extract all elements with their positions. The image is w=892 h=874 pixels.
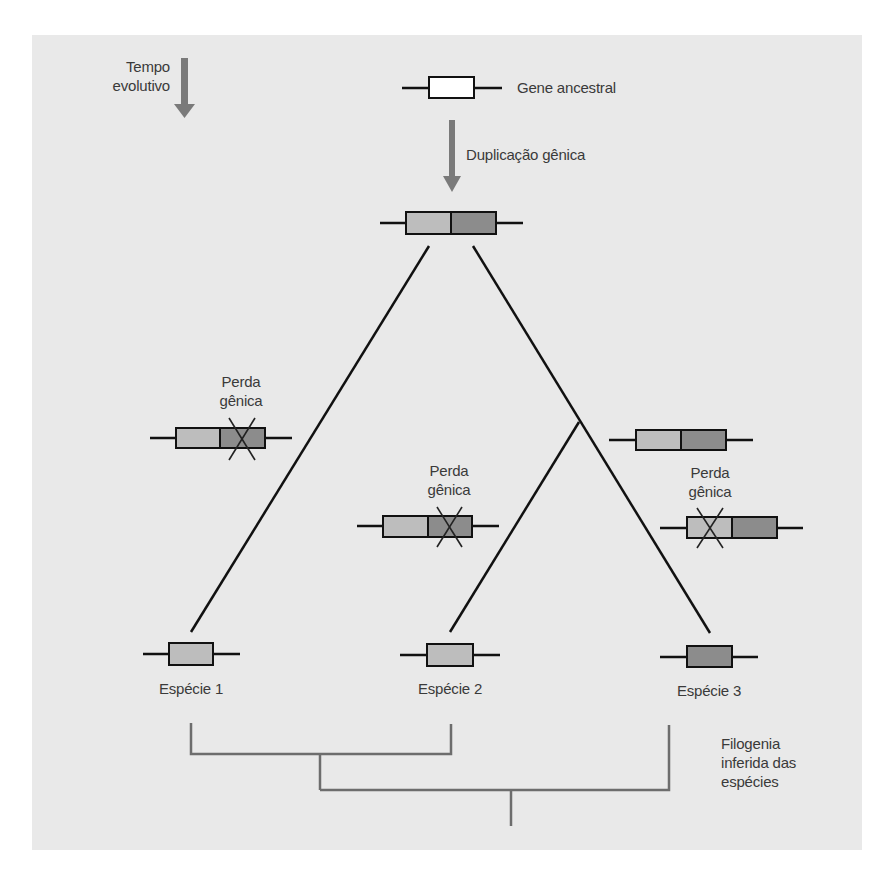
phylogeny-label-line3: espécies [721, 772, 796, 791]
gene-loss-left-label: Perda gênica [200, 372, 282, 410]
loss-label-line1: Perda [408, 461, 490, 480]
duplication-label: Duplicação gênica [466, 145, 585, 164]
time-label: Tempo evolutivo [96, 57, 170, 95]
species3-gene [660, 646, 758, 667]
species2-label: Espécie 2 [400, 679, 500, 698]
loss-label-line1: Perda [669, 463, 751, 482]
species3-label: Espécie 3 [659, 681, 759, 700]
phylogeny-label: Filogenia inferida das espécies [721, 734, 796, 791]
gene-right-upper [609, 430, 753, 450]
loss-label-line1: Perda [200, 372, 282, 391]
gene-loss-right-label: Perda gênica [669, 463, 751, 501]
loss-label-line2: gênica [408, 480, 490, 499]
ancestral-gene-label: Gene ancestral [517, 78, 616, 97]
species2-gene [400, 644, 500, 666]
phylogeny-label-line2: inferida das [721, 753, 796, 772]
loss-label-line2: gênica [200, 391, 282, 410]
duplication-arrow-icon [443, 120, 461, 192]
phylogeny-label-line1: Filogenia [721, 734, 796, 753]
species1-label: Espécie 1 [141, 679, 241, 698]
time-label-line2: evolutivo [96, 76, 170, 95]
time-arrow-icon [174, 58, 195, 118]
gene-loss-right [660, 508, 803, 548]
species1-gene [143, 643, 240, 665]
gene-loss-left [150, 418, 292, 460]
species-phylogeny [191, 723, 669, 826]
loss-label-line2: gênica [669, 482, 751, 501]
time-label-line1: Tempo [96, 57, 170, 76]
duplicated-gene [380, 212, 523, 234]
gene-loss-middle [357, 507, 499, 547]
ancestral-gene [402, 77, 502, 98]
gene-loss-middle-label: Perda gênica [408, 461, 490, 499]
